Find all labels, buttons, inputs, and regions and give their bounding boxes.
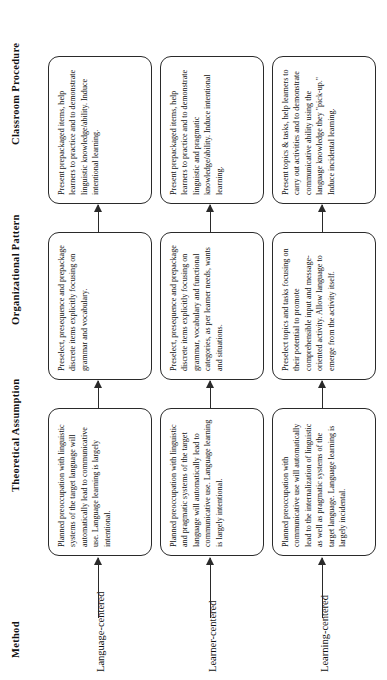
arrow-organizational-to-classroom <box>322 205 323 232</box>
arrow-theoretical-to-organizational <box>210 381 211 408</box>
column-header-classroom-procedure: Classroom Procedure <box>10 43 21 145</box>
method-label-language-centered: Language-centered <box>46 562 154 672</box>
method-comparison-diagram: Method Theoretical Assumption Organizati… <box>0 0 387 680</box>
node-organizational-pattern-learner-centered: Preselect, presequence and prepackage di… <box>160 232 264 380</box>
node-classroom-procedure-learner-centered: Present prepackaged items, help learners… <box>160 56 264 204</box>
diagram-row: Language-centered Planned preoccupation … <box>46 0 154 680</box>
arrow-theoretical-to-organizational <box>98 381 99 408</box>
arrow-method-to-theoretical <box>98 558 99 618</box>
arrow-organizational-to-classroom <box>98 205 99 232</box>
method-label-learner-centered: Learner-centered <box>158 562 266 672</box>
method-label-learning-centered: Learning-centered <box>270 562 378 672</box>
column-header-theoretical-assumption: Theoretical Assumption <box>10 379 21 492</box>
node-theoretical-assumption-learning-centered: Planned preoccupation with communicative… <box>272 408 376 556</box>
rotated-figure-canvas: Method Theoretical Assumption Organizati… <box>0 0 387 680</box>
diagram-row: Learner-centered Planned preoccupation w… <box>158 0 266 680</box>
node-classroom-procedure-learning-centered: Present topics & tasks, help learners to… <box>272 56 376 204</box>
arrow-theoretical-to-organizational <box>322 381 323 408</box>
arrow-method-to-theoretical <box>210 558 211 618</box>
diagram-row: Learning-centered Planned preoccupation … <box>270 0 378 680</box>
column-header-organizational-pattern: Organizational Pattern <box>10 214 21 325</box>
arrow-organizational-to-classroom <box>210 205 211 232</box>
arrow-method-to-theoretical <box>322 558 323 618</box>
node-classroom-procedure-language-centered: Present prepackaged items, help learners… <box>48 56 152 204</box>
node-organizational-pattern-language-centered: Preselect, presequence and prepackage di… <box>48 232 152 380</box>
column-header-method: Method <box>10 621 21 658</box>
column-header-row: Method Theoretical Assumption Organizati… <box>10 0 32 680</box>
node-organizational-pattern-learning-centered: Preselect topics and tasks focusing on t… <box>272 232 376 380</box>
node-theoretical-assumption-language-centered: Planned preoccupation with linguistic sy… <box>48 408 152 556</box>
node-theoretical-assumption-learner-centered: Planned preoccupation with linguistic an… <box>160 408 264 556</box>
